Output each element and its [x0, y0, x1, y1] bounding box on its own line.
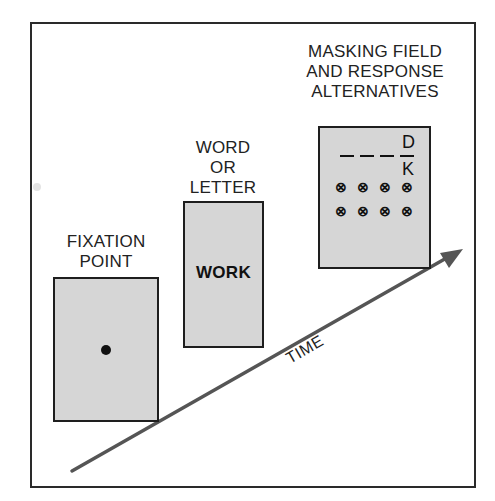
mask-symbol-icon: ⊗ — [334, 180, 348, 194]
mask-symbol-icon: ⊗ — [400, 180, 414, 194]
mask-symbol-icon: ⊗ — [334, 204, 348, 218]
blank-slot — [400, 155, 414, 157]
mask-symbol-icon: ⊗ — [378, 180, 392, 194]
word-panel: WORK — [183, 201, 264, 348]
blank-slot — [340, 155, 354, 157]
word-label: WORD OR LETTER — [178, 138, 268, 198]
fixation-dot-icon — [101, 345, 111, 355]
alternative-k: K — [402, 159, 414, 180]
alternative-d: D — [402, 132, 415, 153]
mask-symbol-icon: ⊗ — [356, 204, 370, 218]
blank-slot — [360, 155, 374, 157]
mask-panel: D K ⊗ ⊗ ⊗ ⊗ ⊗ ⊗ ⊗ ⊗ — [318, 126, 431, 269]
fixation-panel — [53, 277, 159, 422]
mask-symbol-icon: ⊗ — [356, 180, 370, 194]
stimulus-word: WORK — [185, 263, 262, 283]
blank-slot — [380, 155, 394, 157]
mask-symbol-icon: ⊗ — [378, 204, 392, 218]
mask-symbol-icon: ⊗ — [400, 204, 414, 218]
mask-label: MASKING FIELD AND RESPONSE ALTERNATIVES — [300, 42, 450, 102]
mask-grid: ⊗ ⊗ ⊗ ⊗ ⊗ ⊗ ⊗ ⊗ — [334, 180, 414, 218]
arrowhead-icon — [440, 249, 463, 268]
fixation-label: FIXATION POINT — [50, 232, 162, 272]
